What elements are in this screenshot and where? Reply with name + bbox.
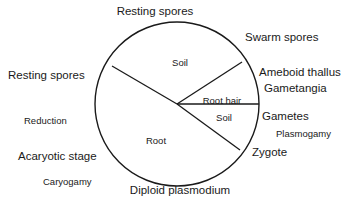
- radial-line-upper-left: [112, 66, 177, 104]
- label-zygote: Zygote: [252, 147, 287, 159]
- label-gametangia: Gametangia: [264, 83, 327, 95]
- interior-label-soil-upper: Soil: [172, 58, 188, 68]
- label-acaryotic-stage: Acaryotic stage: [18, 151, 97, 163]
- label-caryogamy: Caryogamy: [43, 177, 92, 187]
- label-swarm-spores: Swarm spores: [245, 32, 319, 44]
- label-resting-spores-left: Resting spores: [8, 70, 85, 82]
- interior-label-root-hair: Root hair: [203, 96, 242, 106]
- label-reduction: Reduction: [24, 116, 67, 126]
- label-resting-spores-top: Resting spores: [117, 6, 194, 18]
- interior-label-soil-lower: Soil: [216, 113, 232, 123]
- label-ameboid-thallus: Ameboid thallus: [259, 67, 341, 79]
- interior-label-root: Root: [146, 136, 166, 146]
- label-plasmogamy: Plasmogamy: [276, 129, 331, 139]
- diagram-canvas: Soil Root hair Soil Root Resting spores …: [0, 0, 359, 205]
- label-gametes: Gametes: [262, 111, 309, 123]
- radial-line-lower-right: [177, 104, 240, 150]
- label-diploid-plasmodium: Diploid plasmodium: [130, 185, 230, 197]
